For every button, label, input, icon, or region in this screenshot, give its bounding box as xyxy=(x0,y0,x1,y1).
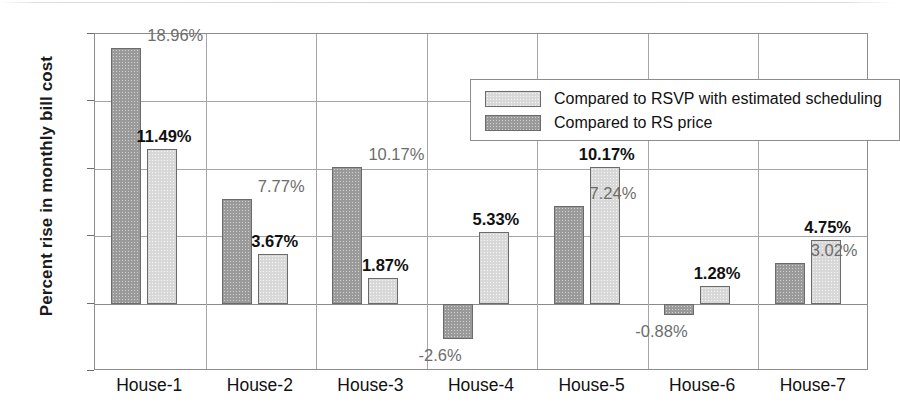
data-label-house-2-dark: 7.77% xyxy=(258,178,305,195)
legend-swatch-light-icon xyxy=(485,91,541,107)
data-label-house-3-light: 1.87% xyxy=(362,257,409,274)
y-tick-mark xyxy=(87,100,94,101)
bar-house-2-dark xyxy=(222,199,252,304)
x-tick-label-house-3: House-3 xyxy=(315,375,426,396)
data-label-house-6-light: 1.28% xyxy=(694,265,741,282)
bar-house-4-dark xyxy=(443,304,473,339)
bar-house-1-dark xyxy=(111,48,141,304)
y-tick-mark xyxy=(87,33,94,34)
data-label-house-4-light: 5.33% xyxy=(473,211,520,228)
legend-swatch-dark-icon xyxy=(485,115,541,131)
vertical-gridline xyxy=(427,34,428,369)
bar-house-6-dark xyxy=(664,304,694,316)
legend-entry-rsvp: Compared to RSVP with estimated scheduli… xyxy=(471,87,899,111)
legend-label-rsvp: Compared to RSVP with estimated scheduli… xyxy=(554,90,882,108)
data-label-house-2-light: 3.67% xyxy=(251,233,298,250)
scan-artifact-line xyxy=(0,2,895,3)
y-tick-mark xyxy=(87,303,94,304)
vertical-gridline xyxy=(206,34,207,369)
x-tick-label-house-7: House-7 xyxy=(757,375,868,396)
vertical-gridline xyxy=(316,34,317,369)
bar-house-2-light xyxy=(258,254,288,303)
x-tick-label-house-6: House-6 xyxy=(647,375,758,396)
zero-baseline xyxy=(95,304,867,305)
y-tick-mark xyxy=(87,370,94,371)
data-label-house-6-dark: -0.88% xyxy=(635,323,687,340)
data-label-house-5-light: 10.17% xyxy=(579,146,635,163)
legend-entry-rs-price: Compared to RS price xyxy=(471,111,899,135)
legend-label-rs-price: Compared to RS price xyxy=(554,114,712,132)
horizontal-gridline xyxy=(95,169,867,170)
x-tick-label-house-1: House-1 xyxy=(94,375,205,396)
y-tick-mark xyxy=(87,235,94,236)
data-label-house-3-dark: 10.17% xyxy=(368,146,424,163)
data-label-house-7-dark: 3.02% xyxy=(811,242,858,259)
data-label-house-5-dark: 7.24% xyxy=(590,185,637,202)
chart-legend: Compared to RSVP with estimated scheduli… xyxy=(470,79,900,141)
y-tick-mark xyxy=(87,168,94,169)
bar-house-7-dark xyxy=(775,263,805,304)
bar-house-6-light xyxy=(700,286,730,303)
data-label-house-7-light: 4.75% xyxy=(804,219,851,236)
bar-house-3-light xyxy=(368,278,398,303)
data-label-house-4-dark: -2.6% xyxy=(419,347,462,364)
y-axis-title: Percent rise in monthly bill cost xyxy=(37,21,57,351)
bar-house-4-light xyxy=(479,232,509,304)
data-label-house-1-light: 11.49% xyxy=(136,128,191,145)
bar-house-1-light xyxy=(147,149,177,304)
x-tick-label-house-5: House-5 xyxy=(536,375,647,396)
bar-house-5-dark xyxy=(554,206,584,304)
plot-area: 18.96%7.77%10.17%-2.6%7.24%-0.88%3.02%11… xyxy=(94,33,868,370)
data-label-house-1-dark: 18.96% xyxy=(147,27,203,44)
bar-house-3-dark xyxy=(332,167,362,304)
x-tick-label-house-4: House-4 xyxy=(426,375,537,396)
x-tick-label-house-2: House-2 xyxy=(205,375,316,396)
